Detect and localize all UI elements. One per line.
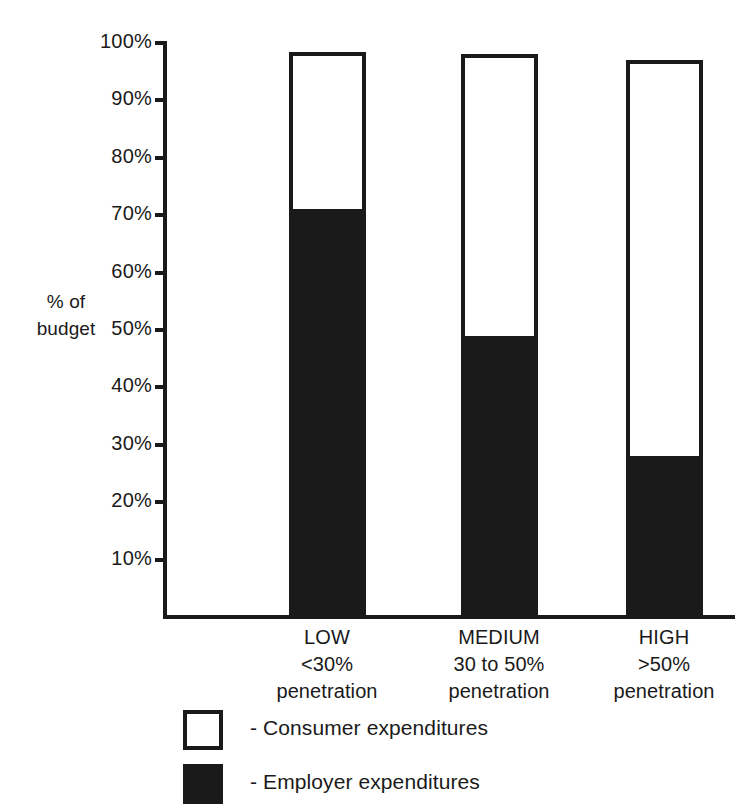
legend-swatch-employer [183,764,223,804]
bar-segment-consumer [289,52,366,214]
y-tick-mark [155,98,165,102]
bar-segment-employer [461,336,538,617]
y-tick-mark [155,328,165,332]
y-axis-title: % ofbudget [6,288,126,342]
y-tick-mark [155,156,165,160]
y-tick-mark [155,213,165,217]
category-label-line: HIGH [554,624,747,651]
y-tick-label-text: 80% [111,145,152,168]
y-tick-label-text: 60% [111,260,152,283]
y-tick-label-text: 30% [111,432,152,455]
bar-segment-consumer [461,54,538,339]
y-tick-label-text: 40% [111,374,152,397]
y-tick-mark [155,271,165,275]
category-label-high: HIGH>50%penetration [554,624,747,705]
y-tick-mark [155,443,165,447]
legend-swatch-consumer [183,710,223,750]
y-tick-mark [155,500,165,504]
stacked-bar [461,54,538,617]
y-tick-mark [155,41,165,45]
y-axis-title-line-2: budget [37,318,96,339]
stacked-bar [626,60,703,617]
y-tick-mark [155,385,165,389]
y-tick-mark [155,558,165,562]
y-tick-label-text: 90% [111,87,152,110]
legend-label: - Employer expenditures [250,770,480,794]
legend-label: - Consumer expenditures [250,716,488,740]
cropped-title-remnant [0,0,747,7]
y-axis-title-line-1: % of [47,291,85,312]
stacked-bar [289,52,366,617]
y-tick-label-text: 10% [111,547,152,570]
y-tick-label-text: 20% [111,489,152,512]
category-label-line: penetration [554,678,747,705]
bar-segment-employer [289,209,366,617]
y-tick-label-text: 50% [111,317,152,340]
category-label-line: >50% [554,651,747,678]
bar-segment-employer [626,456,703,617]
y-tick-label-text: 70% [111,202,152,225]
bar-segment-consumer [626,60,703,460]
y-tick-label-text: 100% [100,30,152,53]
